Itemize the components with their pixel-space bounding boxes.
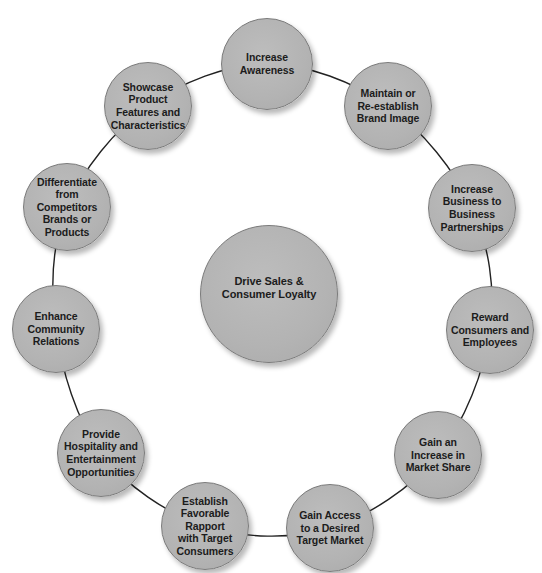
node-label: Reward Consumers and Employees [451,311,529,349]
node-label: Enhance Community Relations [28,310,85,348]
node-increase-market-share: Gain an Increase in Market Share [394,411,482,499]
node-increase-b2b: Increase Business to Business Partnershi… [428,164,516,252]
node-label: Provide Hospitality and Entertainment Op… [64,428,138,478]
node-differentiate-competitors: Differentiate from Competitors Brands or… [23,163,111,251]
node-increase-awareness: Increase Awareness [221,18,313,110]
node-label: Increase Awareness [240,51,294,76]
node-label: Showcase Product Features and Characteri… [111,81,185,131]
node-gain-access-target-market: Gain Access to a Desired Target Market [286,484,374,572]
node-label: Gain Access to a Desired Target Market [297,509,364,547]
center-node-label: Drive Sales & Consumer Loyalty [222,275,316,301]
center-node-drive-sales: Drive Sales & Consumer Loyalty [200,225,338,363]
node-label: Increase Business to Business Partnershi… [441,183,504,233]
node-showcase-features: Showcase Product Features and Characteri… [104,62,192,150]
node-maintain-brand-image: Maintain or Re-establish Brand Image [344,62,432,150]
objectives-ring-diagram: Drive Sales & Consumer Loyalty Increase … [0,0,542,573]
node-enhance-community: Enhance Community Relations [12,285,100,373]
node-label: Differentiate from Competitors Brands or… [37,176,98,239]
node-establish-rapport: Establish Favorable Rapport with Target … [161,482,249,570]
node-label: Maintain or Re-establish Brand Image [357,87,420,125]
node-label: Gain an Increase in Market Share [406,436,471,474]
node-label: Establish Favorable Rapport with Target … [177,495,234,558]
node-reward-consumers: Reward Consumers and Employees [446,286,534,374]
node-provide-hospitality: Provide Hospitality and Entertainment Op… [57,409,145,497]
